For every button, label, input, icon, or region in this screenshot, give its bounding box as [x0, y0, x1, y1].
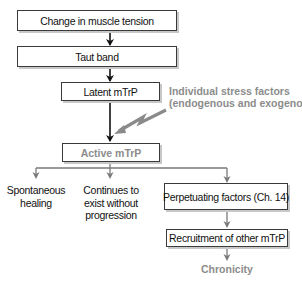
stress-factors-note: Individual stress factors (endogenous an… [169, 85, 302, 109]
label-line: Continues to [74, 184, 148, 197]
node-spontaneous-healing: Spontaneous healing [2, 184, 70, 209]
node-label: Latent mTrP [83, 86, 137, 98]
node-latent-mtrp: Latent mTrP [61, 82, 160, 101]
node-active-mtrp: Active mTrP [62, 143, 160, 162]
node-label: Chronicity [201, 263, 253, 275]
branch-connector [33, 162, 231, 183]
arrow-taut-to-latent [106, 67, 114, 82]
arrow-perpetuating-to-recruitment [224, 210, 231, 228]
node-label: Recruitment of other mTrP [169, 232, 285, 244]
node-continues-to-exist: Continues to exist without progression [74, 184, 148, 222]
node-perpetuating-factors: Perpetuating factors (Ch. 14) [164, 183, 288, 210]
stress-line-1: Individual stress factors [169, 85, 302, 97]
arrow-recruitment-to-chronicity [224, 247, 231, 261]
arrow-latent-to-active [106, 101, 114, 142]
node-chronicity: Chronicity [187, 263, 267, 276]
node-label: Perpetuating factors (Ch. 14) [163, 191, 289, 203]
node-taut-band: Taut band [17, 46, 177, 67]
lightning-arrow-icon [114, 110, 166, 134]
stress-line-2: (endogenous and exogenous) [169, 97, 302, 109]
node-recruitment-of-other-mtrp: Recruitment of other mTrP [166, 229, 288, 247]
label-line: Spontaneous [2, 184, 70, 197]
node-label: Taut band [75, 51, 118, 63]
node-label: Active mTrP [81, 147, 142, 159]
label-line: healing [2, 197, 70, 210]
arrow-change-to-taut [106, 31, 114, 46]
node-change-in-muscle-tension: Change in muscle tension [17, 10, 177, 31]
node-label: Change in muscle tension [40, 15, 154, 27]
label-line: exist without [74, 197, 148, 210]
label-line: progression [74, 209, 148, 222]
